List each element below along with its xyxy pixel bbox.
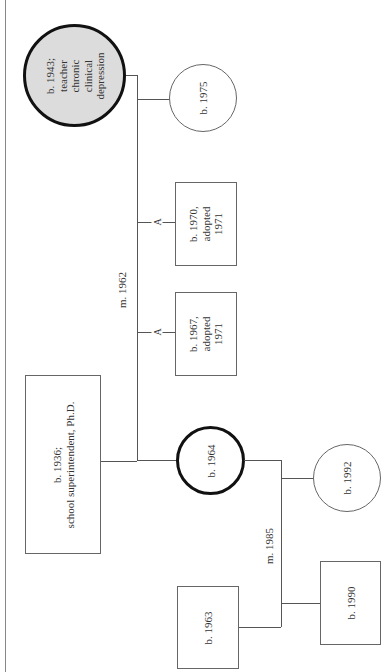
child-marriage-date: m. 1985 [263, 528, 275, 564]
parents-marriage-line [137, 75, 138, 461]
grandson-1990-box: b. 1990 [320, 561, 381, 645]
granddaughter-1992-circle: b. 1992 [313, 444, 381, 512]
granddaughter-1992-label: b. 1992 [341, 462, 354, 495]
child-marriage-line [281, 460, 282, 627]
mother-circle: b. 1943; teacher chronic clinical depres… [23, 24, 126, 127]
grandson-connector [281, 603, 320, 604]
spouse-1963-box: b. 1963 [177, 586, 239, 669]
daughter-1975-circle: b. 1975 [169, 64, 237, 132]
grandson-1990-label: b. 1990 [344, 587, 357, 620]
adoption-marker-1970: A [152, 217, 163, 226]
daughter-1975-connector [137, 99, 170, 100]
mother-connector [125, 75, 137, 76]
adopted-son-1970-box: b. 1970, adopted 1971 [175, 182, 237, 266]
father-box: b. 1936; school superintendent, Ph.D. [25, 375, 101, 554]
genogram-diagram: m. 1962 A A b. 1943; teacher chronic cli… [0, 0, 389, 672]
page-border-line [5, 0, 6, 672]
index-person-connector [137, 460, 177, 461]
index-person-marriage-connector [244, 460, 281, 461]
father-label: b. 1936; school superintendent, Ph.D. [51, 401, 76, 528]
daughter-1975-label: b. 1975 [197, 82, 210, 115]
index-person-circle: b. 1964 [176, 426, 245, 495]
mother-label: b. 1943; teacher chronic clinical depres… [43, 52, 106, 99]
adopted-son-1967-box: b. 1967, adopted 1971 [175, 292, 237, 376]
parents-marriage-date: m. 1962 [116, 272, 128, 308]
father-connector [100, 461, 137, 462]
spouse-connector [238, 627, 281, 628]
granddaughter-connector [281, 478, 314, 479]
adoption-marker-1967: A [152, 327, 163, 336]
index-person-label: b. 1964 [204, 444, 217, 477]
adopted-son-1967-label: b. 1967, adopted 1971 [187, 316, 225, 352]
spouse-1963-label: b. 1963 [202, 611, 215, 644]
adopted-son-1970-label: b. 1970, adopted 1971 [187, 206, 225, 242]
